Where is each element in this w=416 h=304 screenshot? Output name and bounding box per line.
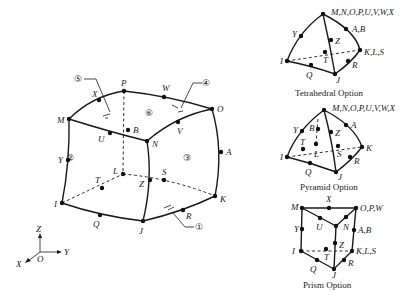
tet-node-ab: [344, 27, 348, 31]
axis-label-origin: O: [37, 254, 44, 264]
prism-node-m: [300, 206, 304, 210]
prism-label-q: Q: [310, 264, 317, 274]
main-hexahedron: P X M W O B U N V A Y L Z S T K I Q R J …: [53, 74, 232, 236]
label-p: P: [120, 78, 127, 88]
pyr-label-t: T: [300, 137, 306, 147]
pyr-node-l: [314, 142, 318, 146]
pyr-label-b: B: [309, 123, 315, 133]
pyr-node-z: [329, 130, 333, 134]
coordinate-axes: Z Y X O: [15, 224, 70, 269]
face5-tick: [103, 114, 110, 118]
label-t: T: [95, 175, 101, 185]
label-v: V: [177, 126, 184, 136]
prism-node-opw: [354, 206, 358, 210]
tet-node-kls: [358, 48, 362, 52]
pyr-node-k: [360, 145, 364, 149]
label-b: B: [133, 125, 139, 135]
node-u: [108, 131, 112, 135]
pyr-label-s: S: [337, 149, 342, 159]
pyr-node-a: [344, 123, 348, 127]
label-i: I: [53, 199, 58, 209]
prism-label-m: M: [290, 202, 299, 212]
tet-node-r: [346, 59, 350, 63]
hidden-edge-i-l: [62, 174, 123, 203]
hidden-edge-p-l: [123, 91, 124, 174]
prism-label-x: X: [325, 194, 332, 204]
tet-node-top: [321, 12, 325, 16]
pyr-edge-top-j: [324, 110, 336, 172]
tet-label-kls: K,L,S: [363, 47, 385, 57]
face-3-label: ③: [183, 153, 191, 163]
prism-label-t: T: [324, 252, 330, 262]
pyr-node-t: [301, 147, 305, 151]
prism-node-u: [318, 216, 322, 220]
face4-pointer: [181, 83, 202, 108]
pyr-label-z: Z: [335, 128, 341, 138]
node-a: [219, 150, 223, 154]
prism-node-x: [327, 206, 331, 210]
prism-node-y: [300, 227, 304, 231]
pyr-label-j: J: [338, 172, 343, 182]
prism-node-q: [315, 258, 319, 262]
label-x: X: [91, 89, 98, 99]
edge-m-n-o: [69, 109, 212, 141]
tet-label-ab: A,B: [351, 24, 366, 34]
label-u: U: [98, 134, 105, 144]
node-r: [181, 208, 185, 212]
pyr-label-q: Q: [305, 167, 312, 177]
prism-label-y: Y: [294, 224, 300, 234]
node-i: [60, 201, 64, 205]
tetrahedral-caption: Tetrahedral Option: [295, 88, 364, 98]
tet-label-q: Q: [306, 70, 313, 80]
pyr-label-y: Y: [293, 125, 299, 135]
node-q: [98, 213, 102, 217]
x-arrow-icon: [25, 258, 31, 263]
node-n: [145, 139, 149, 143]
prism-label-opw: O,P,W: [360, 203, 384, 213]
prism-node-n-mid: [344, 215, 348, 219]
pyramid-caption: Pyramid Option: [300, 182, 358, 192]
node-w: [162, 95, 166, 99]
prism-label-ab: A,B: [357, 225, 372, 235]
tet-node-z: [329, 38, 333, 42]
element-geometry-diagram: P X M W O B U N V A Y L Z S T K I Q R J …: [0, 0, 416, 304]
prism-label-z: Z: [339, 240, 345, 250]
edge-i-j-k: [62, 196, 215, 221]
prism-node-i: [299, 249, 303, 253]
label-y: Y: [58, 155, 64, 165]
face-1-label: ①: [195, 222, 203, 232]
hidden-edge-l-k: [123, 174, 215, 196]
label-n: N: [151, 139, 159, 149]
label-m: M: [56, 115, 65, 125]
pyr-node-y: [300, 129, 304, 133]
tet-label-z: Z: [335, 36, 341, 46]
face4-tick: [172, 105, 183, 112]
node-k: [213, 194, 217, 198]
node-m: [67, 117, 71, 121]
prism-node-t: [324, 247, 328, 251]
node-o: [210, 107, 214, 111]
node-p: [122, 89, 126, 93]
node-v: [176, 120, 180, 124]
face1-tick: [164, 205, 174, 210]
prism-node-n: [334, 224, 338, 228]
node-t: [100, 186, 104, 190]
node-s: [162, 178, 166, 182]
pyr-node-r: [348, 155, 352, 159]
prism-node-kls: [350, 249, 354, 253]
y-arrow-icon: [57, 250, 62, 254]
label-o: O: [217, 104, 224, 114]
prism-node-z: [333, 241, 337, 245]
node-l: [121, 172, 125, 176]
label-r: R: [185, 211, 192, 221]
tet-node-y: [299, 34, 303, 38]
node-j: [141, 219, 145, 223]
label-q: Q: [93, 219, 100, 229]
main-labels: P X M W O B U N V A Y L Z S T K I Q R J: [53, 78, 232, 236]
pyr-edge-i-j-k: [287, 147, 362, 172]
tet-label-top: M,N,O,P,U,V,W,X: [330, 7, 395, 17]
pyr-node-top: [322, 108, 326, 112]
tet-node-t: [323, 50, 327, 54]
tet-node-q: [309, 63, 313, 67]
pyr-node-s: [336, 144, 340, 148]
